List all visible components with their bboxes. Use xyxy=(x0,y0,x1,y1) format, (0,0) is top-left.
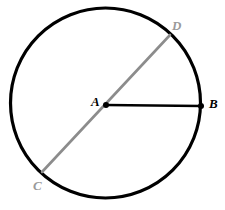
point-marker-a xyxy=(103,102,109,108)
geometry-figure: A B C D xyxy=(0,0,225,210)
point-label-d: D xyxy=(172,19,181,32)
point-marker-b xyxy=(198,103,204,109)
radius-segment-ab xyxy=(106,105,201,106)
point-label-b: B xyxy=(209,97,218,110)
point-label-c: C xyxy=(33,179,42,192)
point-label-a: A xyxy=(91,95,100,108)
